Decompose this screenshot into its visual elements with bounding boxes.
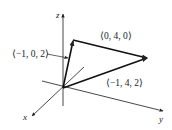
- vector-u-label: ⟨−1, 0, 2⟩: [12, 49, 49, 59]
- vector-u: [63, 41, 73, 88]
- x-axis-label: x: [22, 112, 27, 122]
- y-axis-label: y: [158, 114, 163, 124]
- x-axis: [32, 67, 84, 116]
- y-axis: [42, 81, 163, 111]
- vector-u-leader: [47, 54, 68, 58]
- vector-diagram: z y x ⟨0, 4, 0⟩ ⟨−1, 0, 2⟩ ⟨−1, 4, 2⟩: [0, 0, 172, 130]
- axes: z y x: [22, 10, 163, 124]
- vector-v: [73, 40, 147, 58]
- vector-sum-label: ⟨−1, 4, 2⟩: [106, 78, 143, 88]
- z-axis-label: z: [55, 10, 60, 20]
- vector-v-label: ⟨0, 4, 0⟩: [100, 31, 132, 41]
